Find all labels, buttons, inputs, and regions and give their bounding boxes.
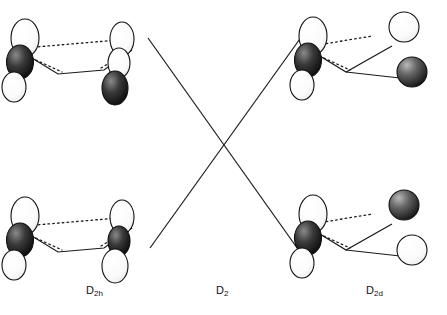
structure-d2d-lower (290, 190, 427, 278)
structure-d2h-upper (2, 19, 134, 105)
structure-d2d-upper (290, 12, 427, 100)
orbital-d2h-upper-left (2, 19, 39, 102)
label-d2h-text: D (86, 284, 94, 296)
correlation-line-2 (150, 36, 302, 248)
orbital-d2d-upper-left (290, 17, 327, 100)
diagram-svg (0, 0, 447, 315)
orbital-d2d-lower-left (290, 195, 327, 278)
bond-frame-d2d-lower (310, 224, 400, 256)
orbital-d2h-lower-left (2, 197, 39, 280)
label-d2d-sub: 2d (374, 289, 383, 298)
structure-d2h-lower (2, 197, 134, 283)
label-d2-sub: 2 (224, 289, 228, 298)
orbital-d2d-upper-right (389, 12, 427, 87)
label-d2-text: D (216, 284, 224, 296)
label-d2h: D2h (86, 284, 103, 296)
label-d2h-sub: 2h (94, 289, 103, 298)
correlation-lines (148, 36, 302, 252)
orbital-d2h-lower-right (102, 200, 134, 283)
bond-frame-d2d-upper (310, 46, 400, 78)
orbital-d2h-upper-right (102, 22, 134, 105)
label-d2d-text: D (366, 284, 374, 296)
label-d2: D2 (216, 284, 228, 296)
diagram-canvas: D2h D2 D2d (0, 0, 447, 315)
label-d2d: D2d (366, 284, 383, 296)
orbital-d2d-lower-right (389, 190, 427, 265)
